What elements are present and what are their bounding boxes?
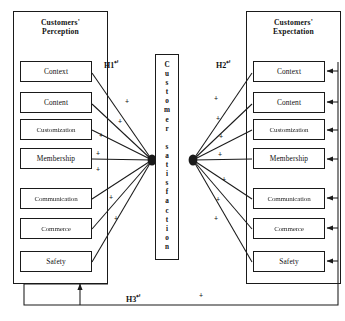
- sign-right-membership: +: [218, 151, 222, 159]
- node-perception-membership[interactable]: Membership: [20, 148, 92, 169]
- node-label: Commerce: [41, 225, 71, 233]
- node-perception-customization[interactable]: Customization: [20, 119, 92, 140]
- node-label: Safety: [46, 257, 65, 266]
- sign-left-context: +: [125, 98, 129, 106]
- perception-title-line1: Customers': [13, 18, 108, 27]
- path-right-context: [193, 73, 252, 160]
- node-expectation-safety[interactable]: Safety: [253, 251, 325, 272]
- node-label: Context: [44, 67, 68, 76]
- sign-left-commerce: +: [109, 194, 113, 202]
- node-label: Content: [44, 98, 68, 107]
- sign-right-safety: +: [214, 215, 218, 223]
- h3-text: H3: [126, 295, 136, 304]
- hypothesis-h3-label: H3↵: [126, 292, 141, 304]
- node-label: Communication: [267, 195, 310, 203]
- h1-text: H1: [104, 61, 114, 70]
- node-expectation-membership[interactable]: Membership: [253, 148, 325, 169]
- node-perception-content[interactable]: Content: [20, 92, 92, 113]
- right-hub-node: [189, 154, 198, 165]
- sign-left-communication: +: [96, 166, 100, 174]
- sign-right-content: +: [216, 115, 220, 123]
- node-perception-safety[interactable]: Safety: [20, 251, 92, 272]
- node-expectation-content[interactable]: Content: [253, 92, 325, 113]
- node-label: Membership: [270, 154, 308, 163]
- sign-left-customization: +: [99, 132, 103, 140]
- sign-right-communication: +: [222, 176, 226, 184]
- expectation-title-line1: Customers': [246, 18, 341, 27]
- customer-satisfaction-box[interactable]: Customer satisfaction: [155, 54, 179, 260]
- path-right-content: [193, 104, 252, 160]
- customers-expectation-title: Customers' Expectation: [246, 18, 341, 37]
- customer-satisfaction-label: Customer satisfaction: [163, 61, 171, 252]
- sign-left-safety: +: [114, 215, 118, 223]
- node-label: Context: [277, 67, 301, 76]
- sign-right-commerce: +: [216, 196, 220, 204]
- sign-right-customization: +: [219, 133, 223, 141]
- node-expectation-communication[interactable]: Communication: [253, 188, 325, 209]
- node-label: Content: [277, 98, 301, 107]
- h3-feedback-stub: [24, 284, 108, 290]
- path-right-commerce: [193, 160, 252, 229]
- hypothesis-h2-label: H2↵: [216, 58, 231, 70]
- node-label: Customization: [37, 126, 76, 134]
- sign-right-context: +: [214, 95, 218, 103]
- node-expectation-customization[interactable]: Customization: [253, 119, 325, 140]
- customers-perception-title: Customers' Perception: [13, 18, 108, 37]
- h2-text: H2: [216, 61, 226, 70]
- node-label: Communication: [34, 195, 77, 203]
- hypothesis-h1-label: H1↵: [104, 58, 119, 70]
- sign-h3: +: [199, 292, 203, 300]
- node-perception-communication[interactable]: Communication: [20, 188, 92, 209]
- sign-left-content: +: [118, 118, 122, 126]
- node-label: Commerce: [274, 225, 304, 233]
- expectation-title-line2: Expectation: [246, 27, 341, 36]
- perception-title-line2: Perception: [13, 27, 108, 36]
- node-perception-context[interactable]: Context: [20, 61, 92, 82]
- path-right-membership: [193, 159, 252, 160]
- node-label: Customization: [270, 126, 309, 134]
- diagram-canvas: Customers' Perception Context Content Cu…: [0, 0, 345, 321]
- h3-feedback-line: [24, 288, 338, 305]
- node-perception-commerce[interactable]: Commerce: [20, 218, 92, 239]
- node-label: Membership: [37, 154, 75, 163]
- node-label: Safety: [279, 257, 298, 266]
- node-expectation-commerce[interactable]: Commerce: [253, 218, 325, 239]
- node-expectation-context[interactable]: Context: [253, 61, 325, 82]
- sign-left-membership: +: [96, 150, 100, 158]
